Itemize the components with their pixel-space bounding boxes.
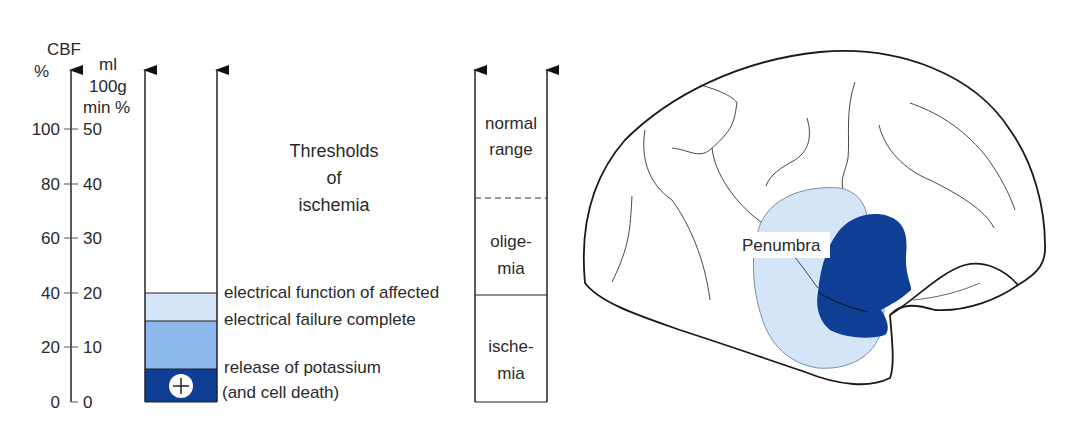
ischemia-diagram: CBF % ml 100g min % 100 50 80 40 60 30 4… bbox=[0, 0, 1069, 424]
axis-unit-percent: % bbox=[34, 62, 49, 81]
label-cell-death: (and cell death) bbox=[222, 383, 339, 402]
band-electrical-failure bbox=[145, 321, 217, 369]
title-line1: Thresholds bbox=[289, 141, 378, 161]
range-oligemia-line1: olige- bbox=[490, 232, 532, 251]
tick-pct-100: 100 bbox=[32, 120, 60, 139]
tick-pct-0: 0 bbox=[51, 393, 60, 412]
threshold-column bbox=[145, 70, 217, 402]
axis-unit-100g: 100g bbox=[89, 77, 127, 96]
title-line3: ischemia bbox=[298, 195, 370, 215]
tick-pct-20: 20 bbox=[41, 338, 60, 357]
axis-unit-ml: ml bbox=[99, 55, 117, 74]
axis-title-cbf: CBF bbox=[47, 40, 81, 59]
tick-pct-60: 60 bbox=[41, 229, 60, 248]
label-electrical-affected: electrical function of affected bbox=[224, 283, 439, 302]
penumbra-label: Penumbra bbox=[742, 236, 821, 255]
tick-pct-80: 80 bbox=[41, 175, 60, 194]
tick-ml-10: 10 bbox=[83, 338, 102, 357]
title-line2: of bbox=[326, 168, 342, 188]
label-potassium-release: release of potassium bbox=[224, 358, 381, 377]
tick-ml-20: 20 bbox=[83, 284, 102, 303]
brain-illustration: Penumbra bbox=[584, 51, 1045, 384]
tick-ml-0: 0 bbox=[83, 393, 92, 412]
band-electrical-affected bbox=[145, 293, 217, 321]
range-normal-line1: normal bbox=[485, 114, 537, 133]
tick-ml-40: 40 bbox=[83, 175, 102, 194]
tick-ml-50: 50 bbox=[83, 120, 102, 139]
range-normal-line2: range bbox=[489, 140, 532, 159]
tick-ml-30: 30 bbox=[83, 229, 102, 248]
axis-unit-min: min % bbox=[83, 98, 130, 117]
range-oligemia-line2: mia bbox=[497, 259, 525, 278]
label-electrical-failure: electrical failure complete bbox=[224, 310, 416, 329]
range-ischemia-line1: ische- bbox=[488, 337, 533, 356]
tick-pct-40: 40 bbox=[41, 284, 60, 303]
range-ischemia-line2: mia bbox=[497, 364, 525, 383]
